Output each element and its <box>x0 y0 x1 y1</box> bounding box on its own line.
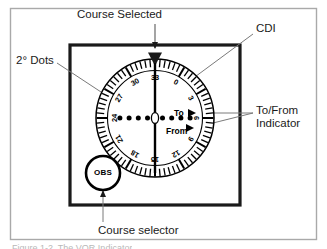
rose-tick <box>159 60 160 67</box>
rose-tick <box>97 122 104 123</box>
from-flag-label: From <box>166 126 187 136</box>
rose-tick <box>150 60 151 67</box>
label-2-degree-dots: 2° Dots <box>16 54 54 67</box>
label-to-from-line2: Indicator <box>256 117 300 130</box>
rose-tick <box>206 122 213 123</box>
rose-number-33: 33 <box>151 73 159 82</box>
label-to-from-indicator: To/From Indicator <box>256 104 300 130</box>
to-flag-label: To <box>174 108 184 118</box>
rose-number-6: 6 <box>192 116 201 120</box>
deviation-dot-left-3 <box>127 116 132 121</box>
figure-caption: Figure 1-2. The VOR Indicator <box>12 243 132 249</box>
deviation-dot-right-1 <box>160 116 165 121</box>
obs-knob-label: OBS <box>86 168 120 177</box>
rose-tick <box>159 169 160 176</box>
rose-number-24: 24 <box>110 114 119 122</box>
rose-tick <box>206 113 213 114</box>
rose-tick <box>150 169 151 176</box>
deviation-dot-left-2 <box>136 116 141 121</box>
rose-number-15: 15 <box>151 155 159 164</box>
rose-tick <box>97 113 104 114</box>
deviation-dot-left-1 <box>145 116 150 121</box>
label-cdi: CDI <box>256 22 276 35</box>
label-to-from-line1: To/From <box>256 104 300 117</box>
label-course-selector: Course selector <box>98 224 179 237</box>
figure-canvas: Course Selected CDI 2° Dots To/From Indi… <box>0 0 327 249</box>
label-course-selected: Course Selected <box>77 8 162 21</box>
center-deviation-circle <box>151 113 158 124</box>
